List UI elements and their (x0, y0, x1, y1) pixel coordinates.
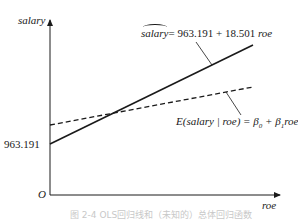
origin-label: O (38, 189, 46, 200)
fitted-equation-rhs: = 963.191 + 18.501 (169, 27, 258, 39)
population-equation-var: roe (284, 115, 298, 127)
y-axis-label: salary (18, 15, 46, 26)
figure-caption: 图 2-4 OLS回归线和（未知的）总体回归函数 (70, 208, 252, 220)
fitted-equation: salary= 963.191 + 18.501 roe (141, 28, 272, 39)
population-equation: E(salary | roe) = β0 + β1roe (176, 116, 298, 130)
population-equation-leader (226, 92, 241, 115)
fitted-equation-leader (196, 42, 212, 65)
intercept-label: 963.191 (4, 139, 40, 150)
population-equation-plus: + β (262, 115, 280, 127)
population-equation-prefix: E(salary | roe) = β (176, 115, 259, 127)
fitted-equation-var: roe (258, 27, 272, 39)
fitted-salary-hat: salary (141, 28, 169, 39)
x-axis-label: roe (262, 200, 276, 211)
